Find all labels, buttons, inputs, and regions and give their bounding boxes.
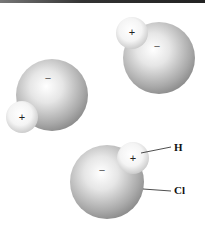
minus-sign: −	[154, 40, 160, 52]
cl-leader-line	[143, 189, 171, 191]
molecule-1: + −	[116, 17, 195, 94]
minus-sign: −	[45, 72, 51, 84]
label-h: H	[174, 142, 183, 153]
hcl-diagram: + − + − + − H Cl	[0, 0, 205, 228]
molecule-2: + −	[6, 59, 88, 133]
plus-sign: +	[130, 152, 136, 164]
molecule-3: + −	[70, 142, 171, 219]
minus-sign: −	[99, 164, 105, 176]
label-cl: Cl	[174, 185, 185, 196]
plus-sign: +	[19, 111, 25, 123]
plus-sign: +	[129, 26, 135, 38]
